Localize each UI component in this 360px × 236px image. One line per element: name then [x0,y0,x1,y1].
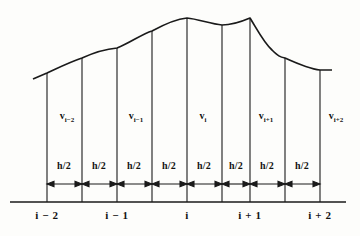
arrow-head-left [222,181,229,187]
arrow-head-left [117,181,124,187]
spacing-label: h/2 [260,161,274,171]
cell-value-label: vi+1 [259,111,273,124]
cell-face-lines [47,18,320,202]
spacing-label: h/2 [127,161,141,171]
arrow-head-left [187,181,194,187]
diagram-canvas [0,0,360,236]
arrow-head-left [152,181,159,187]
axis-tick-label: i − 1 [105,210,128,221]
spacing-label: h/2 [57,161,71,171]
profile-curve [33,18,332,79]
axis-tick-label: i [185,210,189,221]
dimension-arrows [47,181,320,187]
cell-value-label: vi+2 [329,111,343,124]
finite-volume-grid-diagram: vi−2 vi−1 vi vi+1 vi+2 h/2 h/2 h/2 h/2 h… [0,0,360,236]
cell-value-label: vi−2 [60,111,74,124]
cell-value-label: vi [200,111,207,124]
spacing-label: h/2 [197,161,211,171]
spacing-label: h/2 [295,161,309,171]
arrow-head-left [47,181,54,187]
spacing-label: h/2 [92,161,106,171]
arrow-head-right [313,181,320,187]
axis-tick-label: i − 2 [35,210,58,221]
arrow-head-left [82,181,89,187]
cell-value-label: vi−1 [129,111,143,124]
axis-tick-label: i + 1 [238,210,261,221]
spacing-label: h/2 [229,161,243,171]
axis-tick-label: i + 2 [308,210,331,221]
arrow-head-left [250,181,257,187]
spacing-label: h/2 [162,161,176,171]
arrow-head-left [285,181,292,187]
